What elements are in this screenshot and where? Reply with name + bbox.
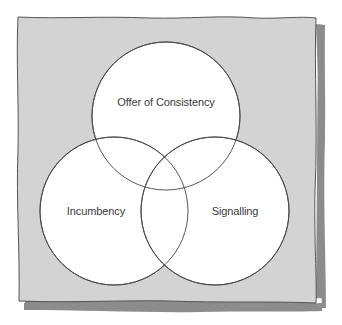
label-signalling: Signalling: [212, 205, 259, 217]
label-incumbency: Incumbency: [67, 205, 125, 217]
venn-diagram-canvas: [0, 0, 342, 325]
label-offer-of-consistency: Offer of Consistency: [117, 96, 214, 108]
